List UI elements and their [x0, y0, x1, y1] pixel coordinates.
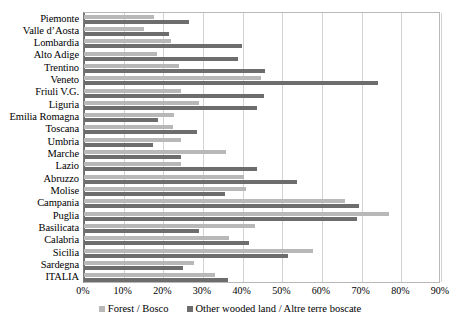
- x-axis-tick-label: 10%: [113, 285, 131, 297]
- y-axis-label: Emilia Romagna: [0, 111, 79, 122]
- bar-other-wooded-land: [84, 32, 169, 36]
- bar-row: [84, 125, 439, 136]
- y-axis-label: Marche: [0, 148, 79, 159]
- bar-forest: [84, 162, 181, 166]
- bar-forest: [84, 76, 261, 80]
- bar-forest: [84, 175, 244, 179]
- bar-row: [84, 236, 439, 247]
- y-axis-label: Valle d’Aosta: [0, 25, 79, 36]
- gridline-90: [441, 13, 442, 282]
- y-axis-label: Puglia: [0, 210, 79, 221]
- bar-other-wooded-land: [84, 241, 249, 245]
- y-axis-label: Basilicata: [0, 222, 79, 233]
- y-axis-labels: PiemonteValle d’AostaLombardiaAlto Adige…: [0, 12, 79, 283]
- bar-other-wooded-land: [84, 130, 197, 134]
- legend-item: Other wooded land / Altre terre boscate: [187, 303, 362, 315]
- bar-other-wooded-land: [84, 118, 158, 122]
- y-axis-label: Lombardia: [0, 37, 79, 48]
- bar-forest: [84, 101, 199, 105]
- bar-forest: [84, 27, 144, 31]
- bar-forest: [84, 64, 179, 68]
- bar-other-wooded-land: [84, 20, 189, 24]
- bar-row: [84, 273, 439, 284]
- bar-other-wooded-land: [84, 44, 242, 48]
- bar-other-wooded-land: [84, 217, 357, 221]
- bar-forest: [84, 39, 171, 43]
- bar-other-wooded-land: [84, 106, 257, 110]
- bar-other-wooded-land: [84, 94, 264, 98]
- chart-legend: Forest / BoscoOther wooded land / Altre …: [0, 301, 460, 317]
- x-axis-tick-label: 0%: [76, 285, 89, 297]
- bar-rows: [84, 13, 439, 282]
- bar-forest: [84, 212, 389, 216]
- y-axis-label: Toscana: [0, 123, 79, 134]
- bar-row: [84, 64, 439, 75]
- bar-row: [84, 113, 439, 124]
- bar-row: [84, 212, 439, 223]
- bar-forest: [84, 273, 215, 277]
- y-axis-label: Liguria: [0, 99, 79, 110]
- plot-area: [83, 12, 440, 283]
- bar-forest: [84, 15, 154, 19]
- bar-row: [84, 187, 439, 198]
- bar-forest: [84, 224, 255, 228]
- y-axis-label: Sicilia: [0, 247, 79, 258]
- bar-forest: [84, 249, 313, 253]
- bar-forest: [84, 138, 181, 142]
- bar-row: [84, 39, 439, 50]
- bar-forest: [84, 261, 194, 265]
- bar-other-wooded-land: [84, 254, 288, 258]
- bar-forest: [84, 236, 229, 240]
- x-axis-tick-label: 60%: [312, 285, 330, 297]
- legend-label: Forest / Bosco: [108, 303, 169, 315]
- bar-row: [84, 162, 439, 173]
- bar-other-wooded-land: [84, 143, 153, 147]
- y-axis-label: Abruzzo: [0, 173, 79, 184]
- bar-row: [84, 175, 439, 186]
- x-axis-labels: 0%10%20%30%40%50%60%70%80%90%: [0, 285, 460, 299]
- bar-forest: [84, 125, 173, 129]
- bar-other-wooded-land: [84, 69, 265, 73]
- bar-row: [84, 199, 439, 210]
- bar-row: [84, 76, 439, 87]
- legend-label: Other wooded land / Altre terre boscate: [196, 303, 362, 315]
- legend-swatch-icon: [187, 306, 193, 312]
- bar-other-wooded-land: [84, 180, 297, 184]
- y-axis-label: Alto Adige: [0, 49, 79, 60]
- x-axis-tick-label: 80%: [391, 285, 409, 297]
- y-axis-label: Calabria: [0, 234, 79, 245]
- bar-other-wooded-land: [84, 229, 199, 233]
- bar-row: [84, 150, 439, 161]
- bar-row: [84, 52, 439, 63]
- bar-other-wooded-land: [84, 266, 183, 270]
- legend-swatch-icon: [99, 306, 105, 312]
- x-axis-tick-label: 20%: [153, 285, 171, 297]
- bar-row: [84, 15, 439, 26]
- y-axis-label: Molise: [0, 185, 79, 196]
- y-axis-label: Lazio: [0, 160, 79, 171]
- legend-item: Forest / Bosco: [99, 303, 169, 315]
- bar-row: [84, 27, 439, 38]
- bar-forest: [84, 199, 345, 203]
- bar-forest: [84, 52, 157, 56]
- bar-row: [84, 224, 439, 235]
- y-axis-label: Veneto: [0, 74, 79, 85]
- y-axis-label: ITALIA: [0, 271, 79, 282]
- bar-other-wooded-land: [84, 204, 359, 208]
- bar-forest: [84, 113, 174, 117]
- bar-other-wooded-land: [84, 278, 228, 282]
- bar-forest: [84, 150, 226, 154]
- y-axis-label: Friuli V.G.: [0, 86, 79, 97]
- bar-row: [84, 261, 439, 272]
- bar-row: [84, 101, 439, 112]
- x-axis-tick-label: 90%: [431, 285, 449, 297]
- x-axis-tick-label: 70%: [351, 285, 369, 297]
- bar-chart: PiemonteValle d’AostaLombardiaAlto Adige…: [0, 0, 460, 324]
- y-axis-label: Sardegna: [0, 259, 79, 270]
- bar-other-wooded-land: [84, 57, 238, 61]
- y-axis-label: Trentino: [0, 62, 79, 73]
- bar-other-wooded-land: [84, 81, 378, 85]
- y-axis-label: Campania: [0, 197, 79, 208]
- bar-row: [84, 249, 439, 260]
- bar-forest: [84, 89, 181, 93]
